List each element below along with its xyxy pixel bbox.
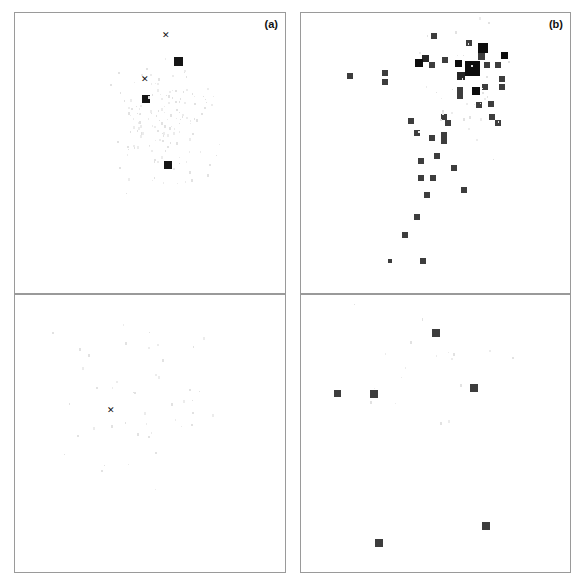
background-speckle — [474, 104, 475, 105]
data-point-square — [418, 158, 424, 164]
data-point-square — [478, 43, 488, 53]
background-speckle — [96, 387, 98, 389]
background-speckle — [151, 83, 152, 85]
background-speckle — [512, 357, 514, 359]
background-speckle — [128, 178, 130, 181]
background-speckle — [172, 75, 174, 77]
background-speckle — [158, 376, 160, 379]
background-speckle — [370, 401, 372, 404]
background-speckle — [148, 347, 150, 349]
background-speckle — [189, 151, 190, 153]
background-speckle — [219, 144, 220, 145]
background-speckle — [140, 105, 142, 107]
background-speckle — [190, 123, 191, 124]
background-speckle — [140, 125, 142, 128]
background-speckle — [161, 98, 163, 100]
background-speckle — [118, 72, 120, 74]
background-speckle — [134, 147, 135, 149]
scatter-area-a-top: ✕✕ — [15, 13, 285, 293]
background-speckle — [148, 118, 149, 120]
background-speckle — [154, 177, 155, 179]
background-speckle — [468, 128, 470, 130]
background-speckle — [82, 367, 84, 370]
background-speckle — [183, 400, 185, 403]
background-speckle — [211, 104, 213, 106]
data-point-square — [402, 232, 408, 238]
background-speckle — [480, 103, 481, 104]
background-speckle — [191, 424, 193, 426]
figure-root: (a) ✕✕ ✕ GROUND STONE CHIPPED FORMED ART… — [0, 0, 586, 587]
background-speckle — [168, 102, 170, 104]
background-speckle — [156, 115, 157, 117]
data-point-square — [470, 384, 478, 392]
background-speckle — [463, 55, 464, 56]
background-speckle — [176, 142, 178, 145]
data-point-square — [482, 522, 490, 530]
background-speckle — [133, 392, 134, 393]
background-speckle — [508, 61, 510, 63]
background-speckle — [112, 387, 113, 389]
background-speckle — [133, 118, 134, 120]
background-speckle — [184, 102, 186, 104]
background-speckle — [139, 121, 141, 124]
background-speckle — [116, 381, 118, 383]
panel-b-bottom: RETOUCHED FLAKES 1 - 12 - 23 - 3 — [300, 294, 571, 573]
data-point-square — [429, 135, 435, 141]
data-point-square — [382, 79, 388, 85]
background-speckle — [175, 419, 176, 421]
background-speckle — [159, 139, 161, 141]
background-speckle — [209, 164, 211, 166]
panel-a-bottom: ✕ GROUND STONE CHIPPED FORMED ARTIFACTS … — [14, 294, 286, 573]
background-speckle — [422, 318, 423, 320]
background-speckle — [77, 435, 79, 437]
background-speckle — [159, 120, 160, 121]
background-speckle — [171, 403, 173, 406]
background-speckle — [194, 96, 195, 97]
background-speckle — [137, 433, 139, 436]
data-point-square — [442, 57, 448, 63]
background-speckle — [101, 470, 103, 472]
background-speckle — [164, 106, 165, 107]
background-speckle — [201, 113, 203, 115]
panel-a-top: (a) ✕✕ — [14, 12, 286, 294]
data-point-square — [472, 87, 480, 95]
background-speckle — [167, 134, 169, 137]
background-speckle — [426, 86, 427, 88]
background-speckle — [125, 422, 126, 424]
background-speckle — [179, 163, 180, 164]
background-speckle — [180, 119, 181, 120]
data-point-square — [457, 93, 463, 99]
data-point-square — [431, 33, 437, 39]
background-speckle — [151, 432, 152, 434]
data-point-square — [455, 60, 462, 67]
background-speckle — [69, 403, 70, 405]
background-speckle — [460, 384, 462, 387]
background-speckle — [117, 141, 119, 143]
background-speckle — [161, 108, 163, 111]
background-speckle — [154, 126, 156, 128]
background-speckle — [174, 128, 175, 130]
background-speckle — [173, 168, 175, 170]
background-speckle — [186, 89, 188, 91]
data-point-square — [499, 84, 505, 90]
background-speckle — [192, 133, 194, 135]
data-point-square — [484, 62, 490, 68]
background-speckle — [150, 74, 152, 76]
background-speckle — [161, 122, 163, 125]
data-point-square — [488, 101, 494, 107]
background-speckle — [52, 332, 54, 334]
background-speckle — [154, 161, 155, 163]
background-speckle — [169, 91, 171, 93]
background-speckle — [179, 131, 180, 133]
background-speckle — [194, 118, 195, 120]
data-point-square — [388, 259, 392, 263]
data-point-square — [482, 84, 488, 90]
background-speckle — [193, 346, 194, 348]
background-speckle — [123, 324, 124, 326]
background-speckle — [155, 374, 157, 376]
background-speckle — [436, 355, 437, 357]
background-speckle — [192, 412, 194, 414]
background-speckle — [182, 114, 184, 116]
background-speckle — [186, 76, 187, 78]
background-speckle — [140, 135, 142, 138]
